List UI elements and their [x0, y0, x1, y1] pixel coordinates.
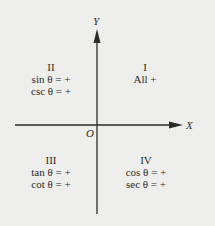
quadrant-numeral: III [22, 154, 80, 166]
quadrant-numeral: II [22, 61, 80, 73]
quadrant-rule: sin θ = + [22, 73, 80, 85]
quadrant-rule: cot θ = + [22, 178, 80, 190]
quadrant-rule: tan θ = + [22, 166, 80, 178]
quadrant-ii: II sin θ = + csc θ = + [22, 61, 80, 97]
y-axis-arrowhead-icon [94, 29, 101, 43]
coordinate-axes-diagram [0, 0, 215, 226]
quadrant-rule: cos θ = + [115, 166, 177, 178]
quadrant-iv: IV cos θ = + sec θ = + [115, 154, 177, 190]
x-axis-label: X [186, 119, 193, 131]
x-axis-arrowhead-icon [169, 122, 183, 129]
quadrant-rule: sec θ = + [115, 178, 177, 190]
quadrant-i: I All + [125, 61, 165, 85]
origin-label: O [86, 127, 94, 139]
quadrant-numeral: IV [115, 154, 177, 166]
y-axis-label: Y [93, 15, 99, 27]
quadrant-numeral: I [125, 61, 165, 73]
quadrant-rule: All + [125, 73, 165, 85]
quadrant-iii: III tan θ = + cot θ = + [22, 154, 80, 190]
quadrant-rule: csc θ = + [22, 85, 80, 97]
